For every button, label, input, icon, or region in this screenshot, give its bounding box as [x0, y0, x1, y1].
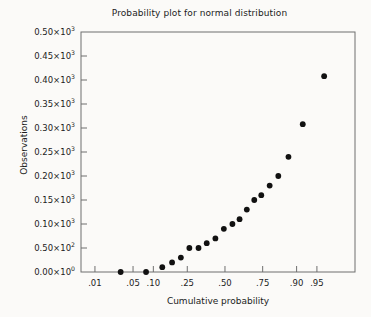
- data-point: [237, 216, 243, 222]
- x-tick-label: .05: [126, 278, 140, 288]
- y-tick-label: 0.20×103: [0, 171, 75, 181]
- data-point: [196, 245, 202, 251]
- x-tick-label: .01: [88, 278, 102, 288]
- data-point: [159, 264, 165, 270]
- data-point: [143, 269, 149, 275]
- data-point: [186, 245, 192, 251]
- data-point: [251, 197, 257, 203]
- data-point: [244, 207, 250, 213]
- data-point: [169, 260, 175, 266]
- y-tick-label: 0.30×103: [0, 123, 75, 133]
- x-tick-label: .95: [310, 278, 324, 288]
- x-tick-label: .50: [218, 278, 232, 288]
- data-point: [213, 236, 219, 242]
- data-point: [321, 73, 327, 79]
- x-tick-label: .10: [147, 278, 161, 288]
- data-point: [221, 226, 227, 232]
- x-tick-label: .90: [290, 278, 304, 288]
- data-point-series: [118, 73, 327, 275]
- x-tick-label: .25: [181, 278, 195, 288]
- y-tick-label: 0.35×103: [0, 99, 75, 109]
- data-point: [275, 173, 281, 179]
- data-point: [178, 255, 184, 261]
- data-point: [267, 183, 273, 189]
- data-point: [230, 221, 236, 227]
- y-tick-label: 0.00×100: [0, 267, 75, 277]
- data-point: [118, 269, 124, 275]
- y-tick-label: 0.45×103: [0, 51, 75, 61]
- probability-plot-figure: Probability plot for normal distribution…: [0, 0, 371, 317]
- y-tick-label: 0.15×103: [0, 195, 75, 205]
- plot-frame-rect: [81, 32, 355, 272]
- data-point: [300, 121, 306, 127]
- y-tick-label: 0.50×102: [0, 243, 75, 253]
- x-tick-label: .75: [256, 278, 270, 288]
- y-tick-label: 0.40×103: [0, 75, 75, 85]
- y-tick-marks: [81, 56, 87, 248]
- y-tick-label: 0.10×103: [0, 219, 75, 229]
- y-tick-label: 0.50×103: [0, 27, 75, 37]
- x-tick-marks: [95, 266, 317, 272]
- data-point: [204, 240, 210, 246]
- data-point: [286, 154, 292, 160]
- y-tick-label: 0.25×103: [0, 147, 75, 157]
- data-point: [258, 192, 264, 198]
- plot-frame: [81, 32, 355, 272]
